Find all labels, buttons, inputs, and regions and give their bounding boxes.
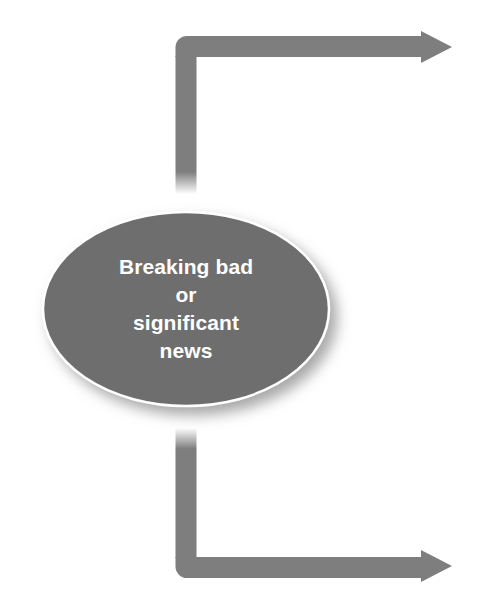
top-arrow-arrowhead-icon <box>421 31 452 63</box>
node-ellipse-shape[interactable] <box>43 212 329 406</box>
node-text-line-2: or <box>175 283 196 306</box>
bottom-arrow-arrowhead-icon <box>421 550 452 582</box>
node-text-line-1: Breaking bad <box>119 255 253 278</box>
node-text-line-4: news <box>160 339 213 362</box>
top-arrow-vertical-shaft <box>176 56 197 194</box>
node-text-line-3: significant <box>133 311 239 334</box>
bottom-arrow-corner-and-horizontal <box>176 543 425 578</box>
bottom-arrow-vertical-shaft <box>176 428 197 558</box>
top-arrow-corner-and-horizontal <box>176 36 425 70</box>
top-elbow-arrow <box>176 31 453 194</box>
diagram-canvas: Breaking bad or significant news <box>0 0 498 605</box>
bottom-elbow-arrow <box>176 428 453 582</box>
breaking-news-node[interactable]: Breaking bad or significant news <box>43 212 329 406</box>
flowchart-diagram: Breaking bad or significant news <box>0 0 498 605</box>
